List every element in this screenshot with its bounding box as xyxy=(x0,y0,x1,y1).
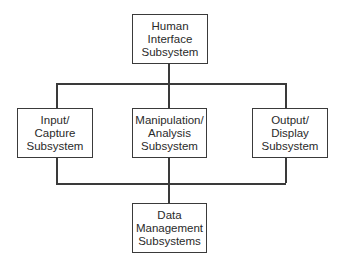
node-label: Data Management Subsystems xyxy=(136,209,203,248)
node-label: Human Interface Subsystem xyxy=(142,20,199,59)
node-output-display-subsystem: Output/ Display Subsystem xyxy=(252,108,328,158)
connector-bottom-middle-rise xyxy=(168,157,170,203)
connector-bottom-left-rise xyxy=(56,157,58,183)
connector-bottom-right-rise xyxy=(285,157,287,183)
node-input-capture-subsystem: Input/ Capture Subsystem xyxy=(17,108,93,158)
node-label: Output/ Display Subsystem xyxy=(262,114,319,153)
connector-top-right-drop xyxy=(285,83,287,108)
node-label: Manipulation/ Analysis Subsystem xyxy=(135,114,203,153)
node-label: Input/ Capture Subsystem xyxy=(27,114,84,153)
node-human-interface-subsystem: Human Interface Subsystem xyxy=(132,14,208,64)
node-manipulation-analysis-subsystem: Manipulation/ Analysis Subsystem xyxy=(132,108,207,158)
connector-top-stem xyxy=(168,63,170,83)
node-data-management-subsystems: Data Management Subsystems xyxy=(132,203,207,253)
connector-top-left-drop xyxy=(56,83,58,108)
connector-top-bus xyxy=(56,83,286,85)
connector-top-middle-drop xyxy=(168,83,170,108)
connector-bottom-bus xyxy=(56,183,286,185)
